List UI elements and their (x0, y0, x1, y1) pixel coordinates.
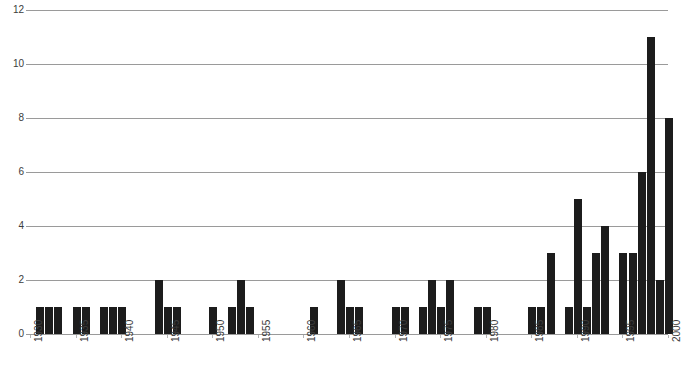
x-tick-label-1980: 1980 (490, 320, 500, 342)
x-tick-label-1955: 1955 (262, 320, 272, 342)
x-tick-label-1995: 1995 (626, 320, 636, 342)
x-tick-label-1985: 1985 (535, 320, 545, 342)
x-tick-label-1950: 1950 (216, 320, 226, 342)
x-tick-label-1965: 1965 (353, 320, 363, 342)
x-tick-label-1990: 1990 (581, 320, 591, 342)
x-tick-label-1930: 1930 (34, 320, 44, 342)
x-tick-label-1960: 1960 (307, 320, 317, 342)
x-tick-label-1935: 1935 (80, 320, 90, 342)
x-tick-label-1945: 1945 (171, 320, 181, 342)
x-tick-label-1975: 1975 (444, 320, 454, 342)
x-tick-label-1940: 1940 (125, 320, 135, 342)
x-tick-label-2000: 2000 (672, 320, 682, 342)
x-tick-label-1970: 1970 (399, 320, 409, 342)
